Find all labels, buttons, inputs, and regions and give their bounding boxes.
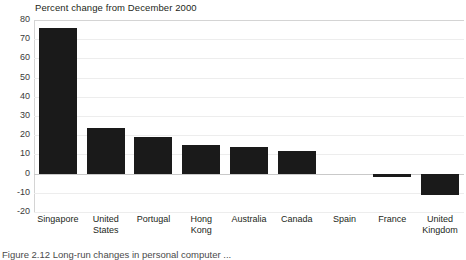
y-axis-tick-label: 50: [4, 73, 30, 82]
x-axis-tick-label: UnitedStates: [82, 214, 130, 236]
plot-area: [34, 20, 464, 212]
x-axis-tick-label: Singapore: [34, 214, 82, 225]
y-axis-tick-label: 70: [4, 34, 30, 43]
x-axis-tick-label: France: [368, 214, 416, 225]
bar: [373, 174, 411, 178]
x-axis-tick-label-line: Kingdom: [416, 225, 464, 236]
x-axis-tick-label: Canada: [273, 214, 321, 225]
x-axis-tick-label-line: Portugal: [130, 214, 178, 225]
x-axis-tick-label: Australia: [225, 214, 273, 225]
x-axis-tick-label: Portugal: [130, 214, 178, 225]
bars-layer: [34, 20, 464, 212]
x-axis-tick-label-line: Australia: [225, 214, 273, 225]
x-axis-tick-label-line: States: [82, 225, 130, 236]
x-axis-tick-label-line: United: [82, 214, 130, 225]
x-axis-tick-label-line: France: [368, 214, 416, 225]
x-axis-tick-label: UnitedKingdom: [416, 214, 464, 236]
figure-caption: Figure 2.12 Long-run changes in personal…: [2, 249, 231, 260]
x-axis-tick-label-line: Spain: [321, 214, 369, 225]
x-axis-tick-label: Spain: [321, 214, 369, 225]
bar: [39, 28, 77, 174]
y-axis-tick-label: 80: [4, 15, 30, 24]
x-axis-tick-label-line: Singapore: [34, 214, 82, 225]
y-axis-tick-label: 20: [4, 130, 30, 139]
y-axis-tick-label: 60: [4, 53, 30, 62]
y-axis-tick-label: -10: [4, 188, 30, 197]
y-axis-tick-label: 10: [4, 149, 30, 158]
y-axis-tick-label: 40: [4, 92, 30, 101]
y-axis-tick-label: 30: [4, 111, 30, 120]
bar: [421, 174, 459, 195]
bar: [230, 147, 268, 174]
x-axis-tick-label-line: Kong: [177, 225, 225, 236]
y-axis: 80706050403020100-10-20: [0, 20, 30, 212]
bar: [182, 145, 220, 174]
x-axis-tick-label-line: Canada: [273, 214, 321, 225]
chart-title: Percent change from December 2000: [35, 2, 197, 13]
x-axis-tick-label-line: Hong: [177, 214, 225, 225]
x-axis: SingaporeUnitedStatesPortugalHongKongAus…: [34, 214, 464, 246]
y-axis-tick-label: 0: [4, 169, 30, 178]
bar: [87, 128, 125, 174]
gridline: [34, 212, 464, 213]
bar: [278, 151, 316, 174]
x-axis-tick-label-line: United: [416, 214, 464, 225]
y-axis-tick-label: -20: [4, 207, 30, 216]
x-axis-tick-label: HongKong: [177, 214, 225, 236]
bar: [134, 137, 172, 173]
